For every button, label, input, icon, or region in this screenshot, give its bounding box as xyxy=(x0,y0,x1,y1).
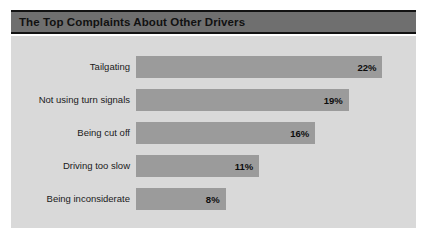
chart-title-band: The Top Complaints About Other Drivers xyxy=(11,10,416,34)
bar-row: Being inconsiderate8% xyxy=(11,188,416,210)
bar-category-label: Tailgating xyxy=(11,56,130,78)
bar-category-label: Not using turn signals xyxy=(11,89,130,111)
chart-figure: The Top Complaints About Other Drivers T… xyxy=(0,0,427,241)
bar-value-label: 19% xyxy=(324,95,343,106)
bar-row: Tailgating22% xyxy=(11,56,416,78)
bar-value-label: 11% xyxy=(235,161,254,172)
bar-category-label: Being cut off xyxy=(11,122,130,144)
bar: 19% xyxy=(136,89,349,111)
bar: 11% xyxy=(136,155,259,177)
bar: 22% xyxy=(136,56,382,78)
bar-track: 16% xyxy=(136,122,416,144)
bar-series: Tailgating22%Not using turn signals19%Be… xyxy=(11,36,416,228)
bar-category-label: Being inconsiderate xyxy=(11,188,130,210)
bar-value-label: 22% xyxy=(357,62,376,73)
page-title: The Top Complaints About Other Drivers xyxy=(19,16,245,28)
bar-track: 11% xyxy=(136,155,416,177)
bar-category-label: Driving too slow xyxy=(11,155,130,177)
bar-track: 8% xyxy=(136,188,416,210)
chart-plot-panel: Tailgating22%Not using turn signals19%Be… xyxy=(11,36,416,228)
bar: 16% xyxy=(136,122,315,144)
bar-row: Driving too slow11% xyxy=(11,155,416,177)
bar-row: Being cut off16% xyxy=(11,122,416,144)
bar-row: Not using turn signals19% xyxy=(11,89,416,111)
bar-track: 19% xyxy=(136,89,416,111)
bar: 8% xyxy=(136,188,226,210)
bar-value-label: 16% xyxy=(290,128,309,139)
bar-track: 22% xyxy=(136,56,416,78)
bar-value-label: 8% xyxy=(206,194,220,205)
